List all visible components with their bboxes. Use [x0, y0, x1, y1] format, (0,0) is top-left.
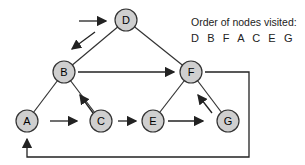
node-e: E: [142, 110, 164, 132]
legend-title: Order of nodes visited:: [191, 16, 297, 28]
svg-text:B: B: [60, 66, 67, 78]
svg-text:D: D: [122, 14, 130, 26]
svg-text:G: G: [224, 115, 233, 127]
node-f: F: [180, 61, 202, 83]
svg-text:A: A: [23, 115, 31, 127]
node-g: G: [217, 110, 239, 132]
svg-text:F: F: [188, 66, 195, 78]
visit-order: D B F A C E G: [191, 32, 295, 44]
node-c: C: [90, 110, 112, 132]
node-b: B: [53, 61, 75, 83]
svg-text:E: E: [149, 115, 156, 127]
node-d: D: [115, 9, 137, 31]
svg-text:C: C: [97, 115, 105, 127]
node-a: A: [16, 110, 38, 132]
